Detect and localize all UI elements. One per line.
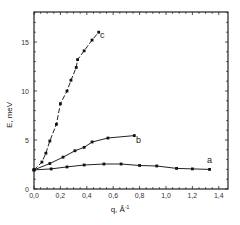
curve-label-b: b	[136, 135, 141, 145]
x-axis-title: q, Å-1	[111, 204, 130, 214]
x-tick-label: 0,2	[56, 192, 66, 199]
data-point-a	[155, 165, 158, 168]
data-point-c	[44, 152, 47, 155]
data-point-c	[59, 102, 62, 105]
plot-frame	[34, 12, 228, 189]
x-axis-title-text: q, Å	[111, 205, 126, 214]
y-axis-title: E, meV	[5, 101, 14, 128]
series-layer	[33, 31, 211, 171]
data-point-b	[48, 162, 51, 165]
data-point-b	[91, 141, 94, 144]
dispersion-chart: 0,00,20,40,60,81,01,21,4051015 a b c E, …	[0, 0, 240, 225]
data-point-a	[83, 164, 86, 167]
data-point-a	[175, 167, 178, 170]
data-point-c	[41, 161, 44, 164]
data-point-c	[75, 66, 78, 69]
x-tick-label: 0,4	[82, 192, 92, 199]
x-tick-label: 0,6	[108, 192, 118, 199]
data-point-a	[50, 168, 53, 171]
data-point-a	[138, 164, 141, 167]
data-point-c	[91, 39, 94, 42]
data-point-b	[62, 156, 65, 159]
x-tick-label: 1,2	[188, 192, 198, 199]
y-tick-label: 5	[25, 137, 29, 144]
axis-ticks: 0,00,20,40,60,81,01,21,4051015	[21, 12, 228, 199]
x-tick-label: 1,4	[214, 192, 224, 199]
y-tick-label: 10	[21, 88, 29, 95]
data-point-b	[107, 137, 110, 140]
data-point-a	[66, 166, 69, 169]
data-point-c	[83, 49, 86, 52]
data-point-a	[208, 168, 211, 171]
y-tick-label: 15	[21, 39, 29, 46]
x-tick-label: 0,8	[135, 192, 145, 199]
x-axis-title-sup: -1	[125, 204, 130, 210]
series-line-c	[34, 32, 99, 170]
data-point-c	[76, 58, 79, 61]
data-point-c	[33, 168, 36, 171]
data-point-c	[48, 140, 51, 143]
data-point-c	[55, 123, 58, 126]
curve-label-c: c	[100, 30, 105, 40]
curve-label-a: a	[207, 155, 212, 165]
data-point-b	[74, 149, 77, 152]
x-tick-label: 0,0	[29, 192, 39, 199]
x-tick-label: 1,0	[161, 192, 171, 199]
data-point-a	[120, 163, 123, 166]
data-point-a	[191, 168, 194, 171]
data-point-c	[66, 90, 69, 93]
y-tick-label: 0	[25, 186, 29, 193]
data-point-c	[70, 79, 73, 82]
data-point-b	[83, 146, 86, 149]
data-point-a	[103, 163, 106, 166]
